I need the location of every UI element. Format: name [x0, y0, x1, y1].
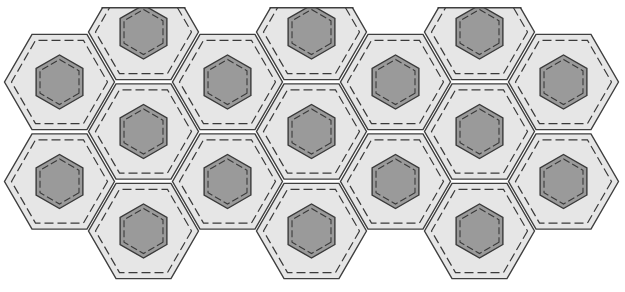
quilt-canvas	[0, 0, 625, 292]
tile-layer	[5, 0, 619, 279]
hexagon-quilt-diagram	[0, 0, 625, 292]
